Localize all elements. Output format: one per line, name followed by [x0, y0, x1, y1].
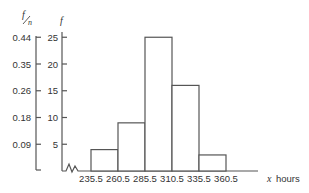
- fn-tick-label: 0.26: [13, 85, 32, 96]
- x-axis-unit: hours: [276, 173, 300, 184]
- x-tick-label: 310.5: [160, 173, 184, 184]
- x-tick-label: 285.5: [133, 173, 157, 184]
- x-axis-variable: x: [266, 173, 272, 184]
- fn-axis-title-num: f: [22, 9, 26, 20]
- histogram-bar: [172, 85, 199, 171]
- fn-tick-label: 0.44: [13, 32, 32, 43]
- histogram-chart: 0.090.180.260.350.44 f n 510152025 f 235…: [0, 0, 309, 193]
- fn-tick-label: 0.18: [13, 112, 32, 123]
- frequency-axis: 510152025 f: [47, 15, 67, 171]
- f-tick-label: 20: [47, 59, 58, 70]
- fn-tick-label: 0.09: [13, 139, 32, 150]
- fn-axis-title-den: n: [28, 18, 32, 27]
- histogram-bar: [199, 155, 226, 171]
- x-tick-label: 335.5: [187, 173, 211, 184]
- histogram-bar: [145, 37, 172, 171]
- relative-frequency-axis: 0.090.180.260.350.44 f n: [13, 9, 42, 170]
- histogram-bar: [91, 150, 118, 171]
- f-tick-label: 25: [47, 32, 58, 43]
- f-tick-label: 10: [47, 112, 58, 123]
- x-tick-label: 235.5: [79, 173, 103, 184]
- fn-tick-label: 0.35: [13, 59, 32, 70]
- histogram-bar: [118, 123, 145, 171]
- x-tick-label: 360.5: [214, 173, 238, 184]
- f-tick-label: 15: [47, 85, 58, 96]
- f-axis-title: f: [60, 15, 64, 26]
- x-tick-label: 260.5: [106, 173, 130, 184]
- histogram-bars: [91, 37, 226, 171]
- f-tick-label: 5: [53, 139, 58, 150]
